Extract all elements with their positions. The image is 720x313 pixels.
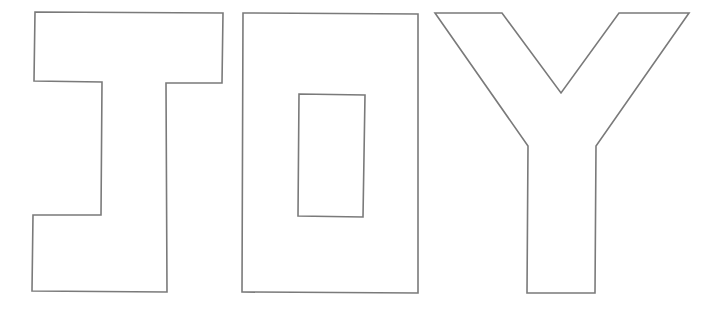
letter-i-shape xyxy=(32,12,223,292)
letter-y-shape xyxy=(435,13,689,293)
letter-i-outline: I xyxy=(32,12,223,292)
letter-outlines-canvas: I O Y xyxy=(0,0,720,313)
letter-o-outline: O xyxy=(242,13,418,293)
letter-o-inner-hole xyxy=(298,94,365,217)
letter-y-outline: Y xyxy=(435,13,689,293)
